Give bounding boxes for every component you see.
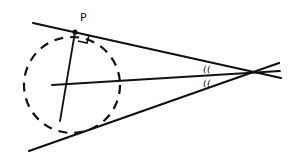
diagram-canvas: P (( (( <box>0 0 290 164</box>
geometry-figure: P (( (( <box>0 0 290 164</box>
angle-mark-upper: (( <box>203 63 212 74</box>
point-p-dot <box>72 29 77 34</box>
point-p-label: P <box>80 11 87 24</box>
radius-line <box>60 32 75 121</box>
upper-tangent-line <box>33 23 281 78</box>
angle-bisector-line <box>52 71 280 85</box>
angle-mark-lower: (( <box>203 77 212 88</box>
lower-tangent-line <box>29 63 279 151</box>
right-angle-marker <box>78 35 89 43</box>
